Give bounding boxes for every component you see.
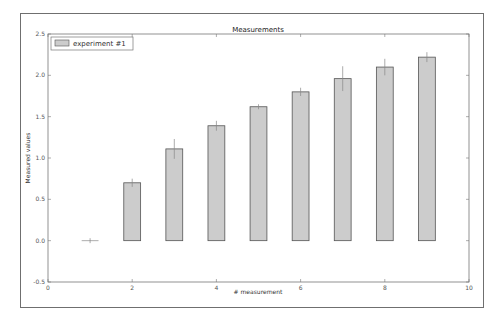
bar-series-experiment-1 bbox=[82, 52, 436, 243]
x-tick-label: 0 bbox=[46, 284, 50, 291]
x-axis-label: # measurement bbox=[234, 288, 283, 295]
bar bbox=[292, 92, 309, 241]
x-tick-label: 8 bbox=[383, 284, 387, 291]
y-tick-label: 2.0 bbox=[35, 71, 45, 78]
bar bbox=[376, 67, 393, 241]
y-tick-label: 1.0 bbox=[35, 154, 45, 161]
x-tick-label: 10 bbox=[465, 284, 473, 291]
y-tick-label: 0.5 bbox=[35, 195, 45, 202]
chart-title: Measurements bbox=[232, 26, 284, 34]
bar bbox=[418, 57, 435, 241]
x-tick-label: 6 bbox=[299, 284, 303, 291]
legend: experiment #1 bbox=[51, 37, 133, 50]
x-tick-label: 2 bbox=[130, 284, 134, 291]
bar-chart: Measurements -0.50.00.51.01.52.02.5 0246… bbox=[0, 0, 502, 322]
legend-label: experiment #1 bbox=[73, 40, 126, 48]
y-tick-label: 1.5 bbox=[35, 113, 45, 120]
y-axis-label: Measured values bbox=[24, 133, 31, 184]
legend-swatch bbox=[55, 40, 69, 46]
bar bbox=[124, 183, 141, 241]
y-tick-label: 0.0 bbox=[35, 237, 45, 244]
bar bbox=[208, 126, 225, 241]
bar bbox=[166, 149, 183, 241]
y-tick-label: 2.5 bbox=[35, 30, 45, 37]
x-tick-label: 4 bbox=[214, 284, 218, 291]
y-tick-label: -0.5 bbox=[33, 278, 45, 285]
bar bbox=[334, 79, 351, 241]
bar bbox=[250, 107, 267, 241]
